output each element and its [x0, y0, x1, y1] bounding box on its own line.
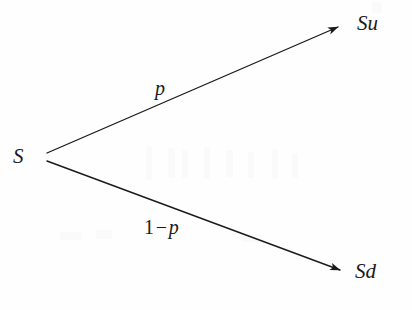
branch-up-line — [47, 27, 338, 153]
binomial-tree-figure: S Su Sd p 1 − p — [0, 0, 412, 310]
branch-down-line — [47, 161, 340, 270]
down-prob-p: p — [169, 216, 179, 238]
node-label-root: S — [13, 146, 24, 167]
down-prob-minus: − — [154, 216, 169, 238]
down-prob-one: 1 — [144, 216, 154, 238]
node-label-up: Su — [357, 13, 378, 34]
node-label-down: Sd — [355, 261, 376, 282]
tree-branches-svg — [0, 0, 412, 310]
branch-label-up-probability: p — [155, 78, 165, 98]
branch-label-down-probability: 1 − p — [144, 217, 179, 237]
